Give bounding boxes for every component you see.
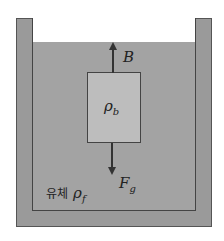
buoyant-force-arrow-icon: [106, 42, 120, 73]
container-bottom-fill: [17, 211, 211, 226]
fluid-label: 유체 ρf: [46, 183, 86, 204]
container-left-fill: [17, 19, 32, 226]
gravity-force-symbol: F: [119, 174, 129, 192]
gravity-force-label: Fg: [119, 176, 136, 194]
fluid-density-label: ρf: [73, 184, 86, 202]
block-density-label: ρb: [104, 99, 119, 117]
buoyant-force-label: B: [123, 50, 134, 65]
gravity-force-subscript: g: [129, 183, 135, 194]
fluid-density-symbol: ρ: [73, 184, 82, 202]
fluid-label-text: 유체: [46, 187, 68, 201]
block-density-symbol: ρ: [104, 97, 113, 115]
buoyant-force-symbol: B: [123, 48, 134, 66]
fluid-density-subscript: f: [82, 193, 86, 204]
gravity-force-arrow-icon: [105, 143, 119, 176]
container-right-fill: [196, 19, 211, 226]
block-density-subscript: b: [113, 106, 119, 117]
